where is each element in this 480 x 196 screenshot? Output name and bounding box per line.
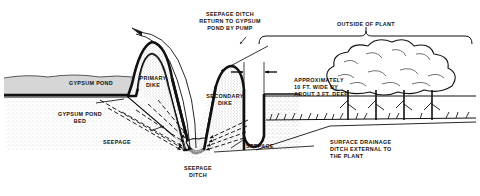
label-outside-of-plant: OUTSIDE OF PLANT: [318, 21, 414, 28]
label-seepage-left: SEEPAGE: [103, 139, 131, 146]
label-seepage-ditch: SEEPAGE DITCH: [172, 165, 224, 179]
label-approximate-dimensions: APPROXIMATELY 10 FT. WIDE BY ABOUT 3 FT.…: [294, 77, 348, 99]
diagram-canvas: SEEPAGE DITCH RETURN TO GYPSUM POND BY P…: [0, 0, 480, 196]
label-surface-drainage-ditch: SURFACE DRAINAGE DITCH EXTERNAL TO THE P…: [330, 139, 392, 161]
outside-of-plant-brace: [259, 27, 472, 44]
label-primary-dike: PRIMARY DIKE: [131, 75, 175, 89]
label-gypsum-pond: GYPSUM POND: [56, 80, 126, 87]
label-gypsum-pond-bed: GYPSUM POND BED: [42, 111, 118, 125]
label-secondary-dike: SECONDARY DIKE: [196, 93, 254, 107]
label-seepage-right: SEEPAGE: [246, 143, 274, 150]
label-seepage-ditch-return: SEEPAGE DITCH RETURN TO GYPSUM POND BY P…: [178, 11, 282, 33]
